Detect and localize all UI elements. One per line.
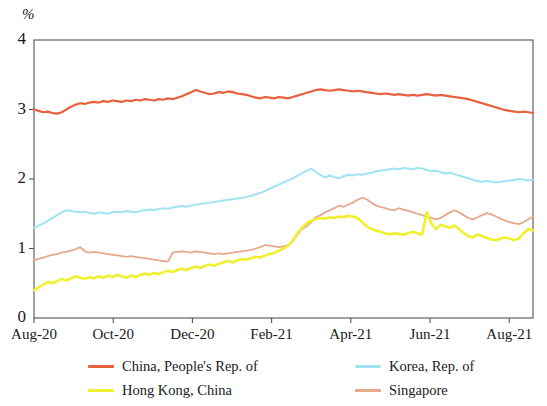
legend-item[interactable]: China, People's Rep. of [88, 358, 258, 375]
legend-label: China, People's Rep. of [122, 358, 258, 375]
x-tick-label: Aug-20 [11, 326, 57, 343]
legend-label: Hong Kong, China [122, 382, 232, 399]
legend-item[interactable]: Singapore [355, 382, 448, 399]
legend-item[interactable]: Hong Kong, China [88, 382, 232, 399]
legend-item[interactable]: Korea, Rep. of [355, 358, 474, 375]
legend-label: Singapore [389, 382, 448, 399]
legend-color-swatch [355, 389, 381, 392]
legend-color-swatch [88, 365, 114, 368]
x-tick-label: Oct-20 [92, 326, 134, 343]
chart-canvas [0, 0, 547, 340]
y-tick-label: 1 [4, 238, 26, 258]
y-tick-label: 3 [4, 99, 26, 119]
legend-color-swatch [355, 365, 381, 368]
chart-legend: China, People's Rep. ofHong Kong, ChinaK… [0, 356, 547, 406]
x-tick-label: Aug-21 [486, 326, 532, 343]
chart-figure: % 01234 Aug-20Oct-20Dec-20Feb-21Apr-21Ju… [0, 0, 547, 406]
legend-label: Korea, Rep. of [389, 358, 474, 375]
plot-area [0, 0, 547, 340]
y-tick-label: 2 [4, 168, 26, 188]
y-tick-label: 4 [4, 29, 26, 49]
x-tick-label: Dec-20 [170, 326, 214, 343]
x-tick-label: Jun-21 [410, 326, 451, 343]
x-tick-label: Apr-21 [329, 326, 372, 343]
legend-color-swatch [88, 389, 114, 393]
x-tick-label: Feb-21 [250, 326, 293, 343]
y-tick-label: 0 [4, 307, 26, 327]
